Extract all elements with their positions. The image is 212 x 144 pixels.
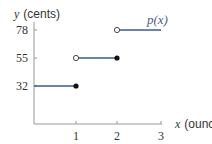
y-axis-var: y [13, 7, 20, 21]
y-axis-label: y(cents) [13, 7, 60, 21]
open-dot-2-78 [114, 27, 119, 32]
x-axis-label: x(ounc [174, 117, 212, 131]
y-tick-label-55: 55 [16, 51, 28, 65]
closed-dot-1-32 [73, 83, 78, 88]
x-axis-var: x [174, 117, 181, 131]
y-axis-unit: (cents) [23, 7, 60, 21]
open-dot-1-55 [73, 55, 78, 60]
x-tick-label-1: 1 [73, 129, 79, 143]
x-tick-label-3: 3 [158, 129, 164, 143]
step-function-chart: 78 55 32 1 2 3 y(cents) x(ounc p(x) [0, 0, 212, 144]
x-tick-label-2: 2 [114, 129, 120, 143]
y-tick-label-78: 78 [16, 23, 28, 37]
y-tick-label-32: 32 [16, 79, 28, 93]
function-label: p(x) [146, 12, 168, 27]
closed-dot-2-55 [114, 55, 119, 60]
x-axis-unit: (ounc [184, 117, 212, 131]
